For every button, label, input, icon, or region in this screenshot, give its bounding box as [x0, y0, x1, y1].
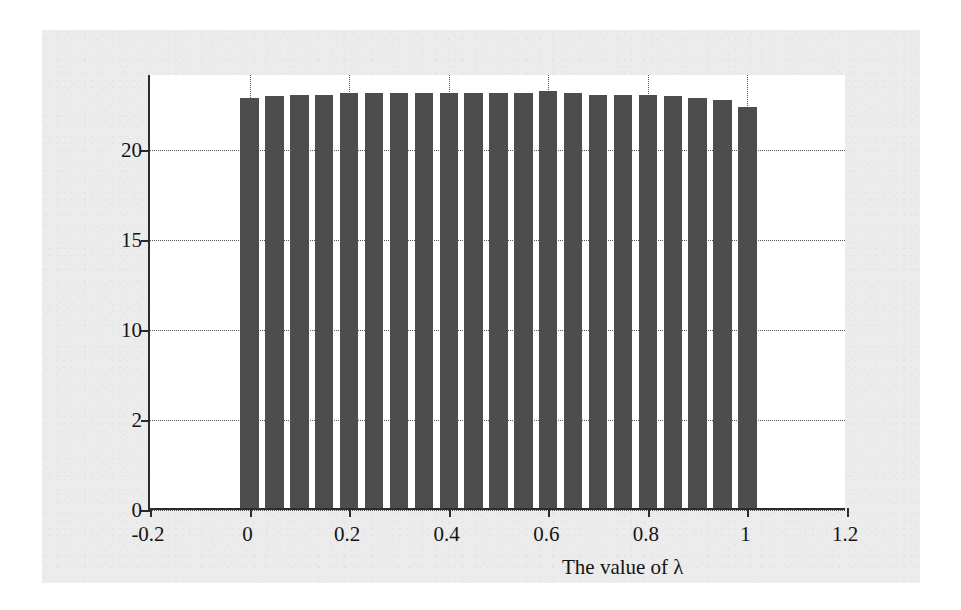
- y-tick-mark: [141, 420, 150, 422]
- figure-panel: Utility on flow level 02101520 -0.200.20…: [42, 30, 920, 583]
- bar: [713, 100, 731, 508]
- bar: [639, 95, 657, 508]
- x-tick-mark: [747, 508, 749, 517]
- bar: [265, 96, 283, 508]
- y-tick-mark: [141, 330, 150, 332]
- bar: [664, 96, 682, 508]
- y-tick-label: 10: [121, 318, 142, 343]
- x-tick-label: 1.2: [832, 522, 858, 547]
- x-tick-mark: [548, 508, 550, 517]
- y-tick-mark: [141, 510, 150, 512]
- x-axis-tick-labels: -0.200.20.40.60.811.2: [148, 522, 845, 552]
- bar: [464, 93, 482, 508]
- bar: [564, 93, 582, 508]
- bar: [539, 91, 557, 508]
- bar: [440, 93, 458, 508]
- bar: [365, 93, 383, 508]
- x-tick-mark: [648, 508, 650, 517]
- y-tick-mark: [141, 240, 150, 242]
- x-tick-mark: [150, 508, 152, 517]
- x-tick-mark: [250, 508, 252, 517]
- x-tick-label: 1: [740, 522, 751, 547]
- x-tick-label: 0.6: [533, 522, 559, 547]
- y-tick-label: 15: [121, 228, 142, 253]
- x-tick-mark: [449, 508, 451, 517]
- gridline-horizontal: [150, 510, 845, 511]
- bar: [415, 93, 433, 508]
- bar: [390, 93, 408, 508]
- y-tick-mark: [141, 150, 150, 152]
- x-axis-label: The value of λ: [562, 555, 684, 580]
- x-tick-label: 0.8: [633, 522, 659, 547]
- bar: [514, 93, 532, 508]
- bar: [240, 98, 258, 508]
- x-tick-label: 0.4: [434, 522, 460, 547]
- bar: [340, 93, 358, 508]
- bar: [489, 93, 507, 508]
- x-tick-mark: [349, 508, 351, 517]
- x-tick-label: 0: [242, 522, 253, 547]
- y-tick-label: 2: [132, 408, 143, 433]
- bar: [315, 95, 333, 508]
- x-tick-label: -0.2: [131, 522, 164, 547]
- bar: [688, 98, 706, 508]
- y-tick-label: 0: [132, 498, 143, 523]
- bar: [589, 95, 607, 508]
- bar: [738, 107, 756, 508]
- bar-series: [150, 75, 845, 508]
- y-axis-tick-labels: 02101520: [102, 75, 142, 510]
- plot-area: [148, 75, 845, 510]
- y-tick-label: 20: [121, 138, 142, 163]
- bar: [614, 95, 632, 508]
- x-tick-mark: [847, 508, 849, 517]
- x-tick-label: 0.2: [334, 522, 360, 547]
- bar: [290, 95, 308, 508]
